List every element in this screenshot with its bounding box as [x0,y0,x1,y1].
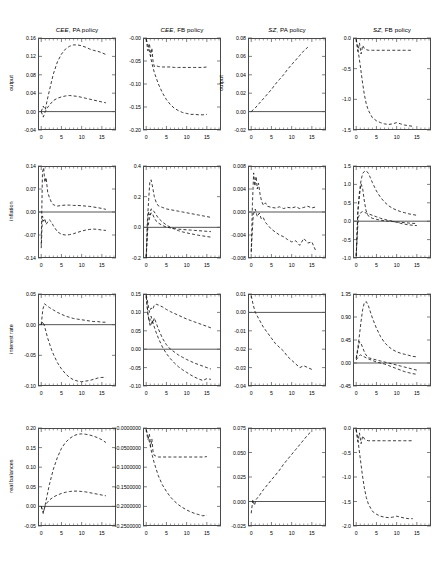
y-tick-label: 0.000 [212,499,246,505]
x-tick-label: 15 [414,262,420,268]
plot-panel-r4c1: real balances0.200.150.100.050.00-0.0505… [2,416,120,540]
x-tick-label: 0 [355,390,358,396]
x-tick-label: 0 [355,134,358,140]
plot-area-r2c2 [143,166,221,258]
y-tick-label: -0.5 [317,66,351,72]
plot-panel-r3c1: interest rate0.050.00-0.05-0.10051015 [2,282,120,400]
y-tick-label: 0.05 [2,291,36,297]
y-tick-label: 0.00 [317,360,351,366]
y-tick-label: 0.06 [212,53,246,59]
y-tick-label: 0.45 [317,337,351,343]
y-tick-label: 0.08 [2,72,36,78]
plot-area-r2c3 [248,166,326,258]
y-tick-label: -0.04 [2,127,36,133]
x-tick-label: 0 [40,530,43,536]
plot-panel-r2c3: 0.0080.0040.000-0.004-0.008051015 [212,154,330,272]
y-tick-label: -0.15 [107,104,141,110]
y-tick-label: 0.01 [212,291,246,297]
x-tick-label: 10 [184,530,190,536]
y-tick-label: 0.15 [107,291,141,297]
x-tick-label: 0 [145,134,148,140]
x-tick-label: 5 [270,134,273,140]
y-tick-label: -0.008 [212,255,246,261]
y-tick-label: 0.00 [2,209,36,215]
x-tick-label: 15 [204,530,210,536]
plot-title-r1c4: SZ, FB policy [353,26,431,33]
y-tick-label: 1.35 [317,291,351,297]
x-tick-label: 15 [99,262,105,268]
x-tick-label: 10 [394,134,400,140]
x-tick-label: 15 [309,262,315,268]
y-tick-label: -0.02 [212,346,246,352]
x-tick-label: 0 [40,262,43,268]
y-tick-label: 0.2 [107,194,141,200]
x-tick-label: 15 [204,262,210,268]
plot-frame [144,295,221,386]
y-tick-label: -0.00 [107,35,141,41]
y-tick-label: 0.14 [2,163,36,169]
plot-frame [144,39,221,130]
x-tick-label: 15 [204,134,210,140]
x-tick-label: 10 [184,134,190,140]
y-tick-label: -0.0500000 [107,445,141,451]
x-tick-label: 0 [250,134,253,140]
plot-frame [39,39,116,130]
y-tick-label: -0.2 [107,255,141,261]
plot-area-r2c4 [353,166,431,258]
plot-frame [144,429,221,526]
x-tick-label: 15 [309,134,315,140]
y-tick-label: -0.01 [212,328,246,334]
x-tick-label: 0 [145,530,148,536]
x-tick-label: 5 [375,262,378,268]
x-tick-label: 0 [250,390,253,396]
x-tick-label: 10 [394,390,400,396]
plot-frame [249,429,326,526]
y-tick-label: 0.00 [2,503,36,509]
y-tick-label: -0.1500000 [107,484,141,490]
plot-frame [354,429,431,526]
y-tick-label: 0.00 [107,346,141,352]
y-tick-label: 0.00 [2,109,36,115]
y-tick-label: -0.5 [317,450,351,456]
x-tick-label: 10 [79,390,85,396]
plot-panel-r3c4: 1.350.900.450.00-0.45051015 [317,282,435,400]
x-tick-label: 15 [99,134,105,140]
y-tick-label: 0.00 [2,322,36,328]
y-tick-label: -0.10 [107,81,141,87]
y-tick-label: 0.025 [212,474,246,480]
plot-frame [354,167,431,258]
plot-area-r2c1 [38,166,116,258]
x-tick-label: 5 [60,390,63,396]
x-tick-label: 10 [289,134,295,140]
y-tick-label: 0.008 [212,163,246,169]
y-tick-label: 0.90 [317,314,351,320]
y-tick-label: 0.12 [2,53,36,59]
y-axis-label-r3c1: interest rate [8,293,14,385]
y-tick-label: -0.05 [107,58,141,64]
x-tick-label: 0 [40,134,43,140]
y-tick-label: -1.0 [317,474,351,480]
plot-area-r3c3 [248,294,326,386]
plot-frame [249,295,326,386]
y-tick-label: -1.0 [317,96,351,102]
x-tick-label: 15 [204,390,210,396]
x-tick-label: 5 [60,262,63,268]
y-tick-label: -1.5 [317,499,351,505]
plot-area-r4c3 [248,428,326,526]
y-axis-label-r1c1: output [8,37,14,129]
plot-area-r1c4 [353,38,431,130]
plot-panel-r3c2: 0.150.100.050.00-0.05-0.10051015 [107,282,225,400]
y-tick-label: 0.000 [212,209,246,215]
y-tick-label: 0.5 [317,200,351,206]
x-tick-label: 15 [309,530,315,536]
y-tick-label: -0.2500000 [107,523,141,529]
x-tick-label: 15 [99,530,105,536]
y-tick-label: -0.02 [212,127,246,133]
y-tick-label: 0.10 [107,309,141,315]
x-tick-label: 10 [289,530,295,536]
plot-area-r3c4 [353,294,431,386]
plot-panel-r4c2: -0.0000000-0.0500000-0.1000000-0.1500000… [107,416,225,540]
y-tick-label: -0.07 [2,232,36,238]
y-tick-label: 1.0 [317,181,351,187]
x-tick-label: 5 [375,134,378,140]
